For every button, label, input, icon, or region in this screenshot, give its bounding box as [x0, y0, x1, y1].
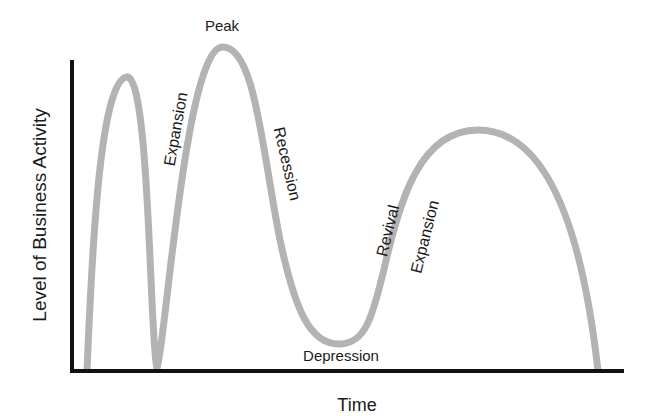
y-axis-label: Level of Business Activity	[29, 108, 50, 322]
expansion-label-2: Expansion	[407, 198, 442, 275]
recession-label: Recession	[271, 125, 304, 202]
business-cycle-curve	[87, 47, 598, 371]
x-axis-label: Time	[337, 395, 376, 415]
revival-label: Revival	[373, 203, 402, 258]
peak-label: Peak	[205, 17, 240, 34]
business-cycle-diagram: Peak Expansion Recession Depression Revi…	[0, 0, 654, 416]
depression-label: Depression	[303, 347, 379, 364]
